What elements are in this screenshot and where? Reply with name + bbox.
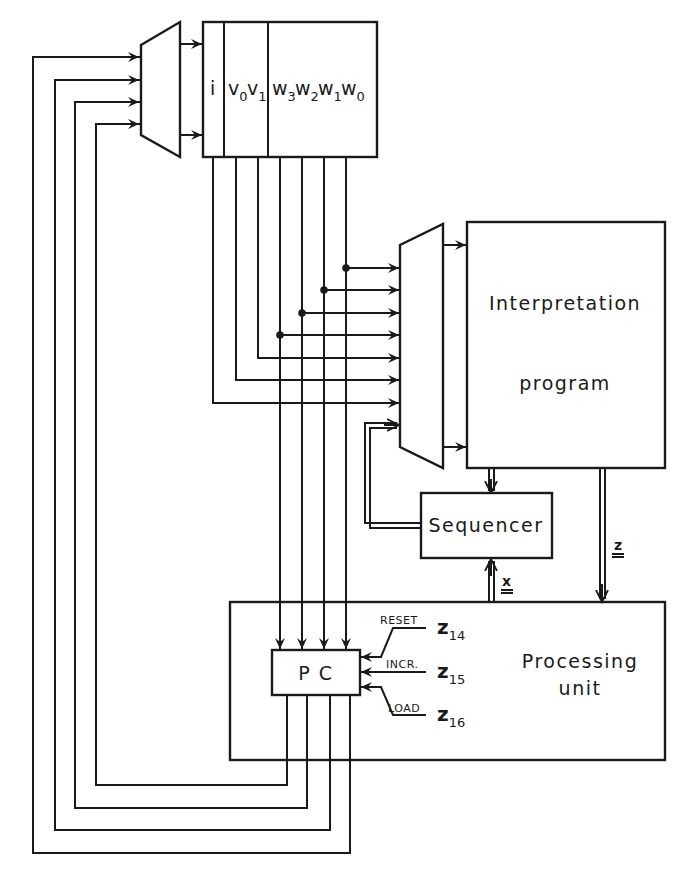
sequencer-label: Sequencer	[428, 514, 543, 536]
field-i: i	[210, 77, 215, 99]
instruction-register: i v0 v1 w3 w2 w1 w0	[203, 22, 377, 157]
x-bus: x	[489, 559, 512, 602]
junction-dot	[276, 331, 284, 339]
junction-dot	[298, 309, 306, 317]
unit-label: unit	[559, 677, 602, 699]
interpretation-program-box: Interpretation program	[467, 222, 665, 468]
junction-dot	[320, 286, 328, 294]
interp-to-sequencer-bus	[489, 468, 494, 493]
interpreter-block-diagram: i v0 v1 w3 w2 w1 w0	[0, 0, 690, 873]
program-counter-box: P C	[272, 650, 360, 695]
z-bus: z	[600, 468, 623, 602]
top-multiplexer	[141, 22, 180, 157]
processing-label: Processing	[522, 650, 638, 672]
z15-label: z15	[437, 659, 465, 687]
top-mux-outputs	[180, 44, 202, 135]
pc-label: P C	[298, 662, 333, 684]
register-to-mux-lines	[213, 157, 399, 403]
reset-label: RESET	[380, 614, 418, 627]
load-label: LOAD	[388, 702, 420, 715]
middle-mux-outputs	[443, 245, 466, 447]
middle-multiplexer	[400, 224, 443, 468]
z-bus-label: z	[614, 537, 622, 553]
interpretation-label: Interpretation	[489, 292, 641, 314]
program-label: program	[519, 372, 611, 394]
x-bus-label: x	[502, 573, 511, 589]
pc-control-signals: RESET z14 INCR. z15 LOAD z16	[361, 614, 465, 730]
z16-label: z16	[437, 702, 465, 730]
z14-label: z14	[437, 615, 465, 643]
junction-dot	[342, 264, 350, 272]
sequencer-box: Sequencer	[421, 493, 552, 558]
incr-label: INCR.	[386, 658, 418, 671]
